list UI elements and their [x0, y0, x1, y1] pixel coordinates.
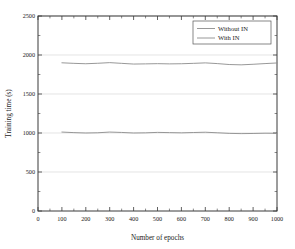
x-tick-label: 500	[153, 215, 162, 222]
x-tick-label: 800	[225, 215, 234, 222]
x-tick-label: 600	[177, 215, 186, 222]
x-tick-label: 400	[129, 215, 138, 222]
x-tick-label: 200	[81, 215, 90, 222]
plot-frame	[38, 16, 277, 211]
x-tick-label: 100	[57, 215, 66, 222]
x-tick-label: 300	[105, 215, 114, 222]
chart-figure: 0500100015002000250001002003004005006007…	[0, 0, 295, 249]
y-axis-title: Training time (s)	[5, 89, 13, 138]
y-tick-label: 2500	[23, 12, 35, 19]
y-tick-label: 2000	[23, 51, 35, 58]
legend-label-0: Without IN	[218, 25, 248, 32]
x-tick-label: 700	[201, 215, 210, 222]
x-tick-label: 0	[36, 215, 39, 222]
y-tick-label: 0	[32, 207, 35, 214]
series-line-0	[62, 63, 277, 65]
x-tick-label: 900	[248, 215, 257, 222]
x-axis-title: Number of epochs	[131, 234, 184, 242]
y-tick-label: 500	[26, 168, 35, 175]
y-tick-label: 1000	[23, 129, 35, 136]
chart-canvas: 0500100015002000250001002003004005006007…	[0, 0, 295, 249]
legend-label-1: With IN	[218, 34, 240, 41]
x-tick-label: 1000	[271, 215, 283, 222]
y-tick-label: 1500	[23, 90, 35, 97]
